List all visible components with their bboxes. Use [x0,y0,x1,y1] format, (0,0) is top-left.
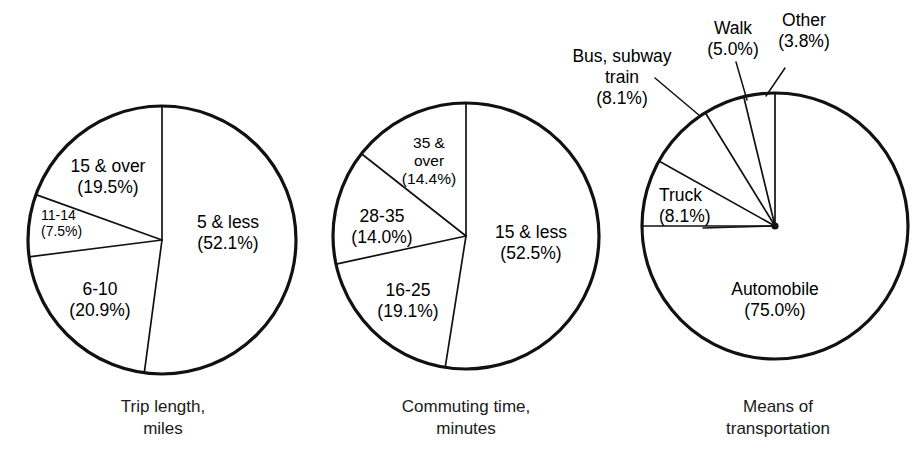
slice-label-trip-length-0: 5 & less(52.1%) [197,212,259,253]
slice-label-means-of-transportation-3: Walk(5.0%) [707,18,759,59]
slice-label-line: (14.4%) [402,170,456,187]
pie-chart-means-of-transportation: Automobile(75.0%)Truck(8.1%)Bus, subwayt… [572,10,908,359]
slice-label-line: Truck [659,185,702,205]
slice-label-line: (8.1%) [596,88,648,108]
slice-label-line: 15 & over [71,156,146,176]
slice-label-line: 15 & less [495,222,567,242]
caption-line: Commuting time, [402,397,530,416]
slice-label-line: over [414,152,444,169]
caption-line: Trip length, [121,397,205,416]
slice-label-line: 5 & less [197,212,259,232]
slice-label-line: (8.1%) [659,206,711,226]
slice-label-line: 6-10 [82,279,117,299]
slice-label-commuting-time-0: 15 & less(52.5%) [495,222,567,263]
pie-chart-trip-length: 5 & less(52.1%)6-10(20.9%)11-14(7.5%)15 … [28,106,296,374]
captions-layer: Trip length,milesCommuting time,minutesM… [121,397,830,438]
slice-label-line: (75.0%) [744,300,805,320]
slice-label-trip-length-3: 15 & over(19.5%) [71,156,146,197]
slice-label-line: Walk [714,18,752,38]
slice-label-commuting-time-1: 16-25(19.1%) [377,280,438,321]
slice-label-line: (19.1%) [377,301,438,321]
leader-line-means-of-transportation-3 [736,62,747,100]
slice-label-line: 35 & [413,134,446,151]
slice-label-line: Bus, subway [572,46,671,66]
slice-label-line: (5.0%) [707,39,759,59]
slice-label-line: train [605,67,639,87]
slice-label-line: (52.5%) [500,243,561,263]
slice-label-line: (7.5%) [41,223,82,239]
slice-label-means-of-transportation-4: Other(3.8%) [778,10,830,51]
slice-label-line: Other [782,10,826,30]
chart-caption-0: Trip length,miles [121,397,205,438]
leader-line-means-of-transportation-2 [655,78,700,116]
pie-chart-figure: 5 & less(52.1%)6-10(20.9%)11-14(7.5%)15 … [0,0,918,471]
slice-label-line: (52.1%) [197,233,258,253]
charts-layer: 5 & less(52.1%)6-10(20.9%)11-14(7.5%)15 … [28,10,908,374]
chart-caption-2: Means oftransportation [726,397,830,438]
slice-label-line: 28-35 [360,206,405,226]
chart-caption-1: Commuting time,minutes [402,397,530,438]
slice-label-commuting-time-2: 28-35(14.0%) [351,206,412,247]
slice-label-means-of-transportation-2: Bus, subwaytrain(8.1%) [572,46,671,108]
slice-label-line: 16-25 [386,280,431,300]
caption-line: minutes [436,419,496,438]
slice-label-line: 11-14 [41,207,76,223]
caption-line: transportation [726,419,830,438]
slice-label-line: Automobile [731,279,819,299]
caption-line: Means of [743,397,813,416]
slice-label-line: (14.0%) [351,227,412,247]
caption-line: miles [143,419,183,438]
slice-label-line: (19.5%) [77,177,138,197]
slice-label-line: (20.9%) [69,300,130,320]
pie-chart-commuting-time: 15 & less(52.5%)16-25(19.1%)28-35(14.0%)… [333,103,599,369]
slice-label-line: (3.8%) [778,31,830,51]
figure-root: 5 & less(52.1%)6-10(20.9%)11-14(7.5%)15 … [0,0,918,471]
